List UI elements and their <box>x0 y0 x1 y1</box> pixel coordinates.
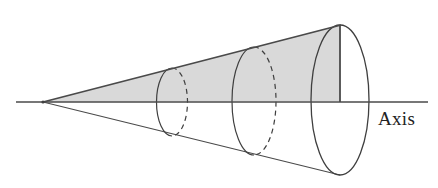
axis-label: Axis <box>378 108 415 129</box>
cone-diagram-svg: Axis <box>0 0 438 188</box>
lower-slant-line <box>43 102 340 175</box>
cone-figure: Axis <box>0 0 438 188</box>
apex-point <box>41 100 44 103</box>
